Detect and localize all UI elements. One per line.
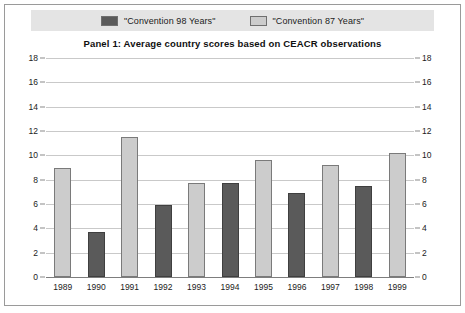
y-tickmark-right-8 bbox=[415, 179, 420, 180]
x-axis-label-1990: 1990 bbox=[87, 282, 106, 292]
y-tickmark-right-2 bbox=[415, 252, 420, 253]
bar-1997 bbox=[322, 165, 339, 277]
legend-entry-convention-87: "Convention 87 Years" bbox=[250, 16, 365, 26]
legend-swatch-icon-convention-87 bbox=[250, 16, 267, 26]
bar-group bbox=[46, 58, 414, 277]
x-axis-label-1992: 1992 bbox=[154, 282, 173, 292]
y-axis-label-left-16: 16 bbox=[18, 78, 38, 87]
y-tickmark-left-12 bbox=[40, 131, 45, 132]
x-axis-label-1997: 1997 bbox=[321, 282, 340, 292]
legend-swatch-icon-convention-98 bbox=[101, 16, 118, 26]
y-tickmark-left-14 bbox=[40, 106, 45, 107]
y-axis-label-right-8: 8 bbox=[422, 175, 442, 184]
y-axis-label-left-0: 0 bbox=[18, 273, 38, 282]
y-axis-label-right-16: 16 bbox=[422, 78, 442, 87]
y-tickmark-right-4 bbox=[415, 228, 420, 229]
y-tickmark-left-18 bbox=[40, 58, 45, 59]
y-axis-label-right-0: 0 bbox=[422, 273, 442, 282]
gridline-0 bbox=[46, 277, 414, 278]
bar-1991 bbox=[121, 137, 138, 277]
y-tickmark-right-12 bbox=[415, 131, 420, 132]
bar-1998 bbox=[355, 186, 372, 277]
chart-legend: "Convention 98 Years" "Convention 87 Yea… bbox=[31, 10, 434, 31]
y-tickmark-right-6 bbox=[415, 204, 420, 205]
y-axis-label-left-8: 8 bbox=[18, 175, 38, 184]
y-axis-label-left-10: 10 bbox=[18, 151, 38, 160]
y-tickmark-left-0 bbox=[40, 277, 45, 278]
y-tickmark-left-16 bbox=[40, 82, 45, 83]
chart-figure: "Convention 98 Years" "Convention 87 Yea… bbox=[0, 0, 465, 313]
plot-area: 002244668810101212141416161818 bbox=[46, 58, 414, 277]
y-tickmark-right-0 bbox=[415, 277, 420, 278]
y-tickmark-left-2 bbox=[40, 252, 45, 253]
y-axis-label-right-10: 10 bbox=[422, 151, 442, 160]
y-axis-label-left-2: 2 bbox=[18, 248, 38, 257]
y-tickmark-right-16 bbox=[415, 82, 420, 83]
bar-1992 bbox=[155, 205, 172, 277]
y-axis-label-left-6: 6 bbox=[18, 200, 38, 209]
y-axis-label-left-12: 12 bbox=[18, 127, 38, 136]
y-tickmark-right-18 bbox=[415, 58, 420, 59]
bar-1990 bbox=[88, 232, 105, 277]
x-axis-label-1993: 1993 bbox=[187, 282, 206, 292]
bar-1999 bbox=[389, 153, 406, 277]
y-tickmark-left-6 bbox=[40, 204, 45, 205]
legend-entry-convention-98: "Convention 98 Years" bbox=[101, 16, 216, 26]
y-axis-label-right-18: 18 bbox=[422, 54, 442, 63]
x-axis-label-1998: 1998 bbox=[354, 282, 373, 292]
bar-1995 bbox=[255, 160, 272, 277]
y-axis-label-left-18: 18 bbox=[18, 54, 38, 63]
y-tickmark-left-4 bbox=[40, 228, 45, 229]
y-axis-label-right-4: 4 bbox=[422, 224, 442, 233]
y-axis-label-right-6: 6 bbox=[422, 200, 442, 209]
legend-label-convention-98: "Convention 98 Years" bbox=[124, 16, 216, 26]
y-tickmark-right-14 bbox=[415, 106, 420, 107]
bar-1989 bbox=[54, 168, 71, 278]
x-axis-label-1994: 1994 bbox=[221, 282, 240, 292]
legend-label-convention-87: "Convention 87 Years" bbox=[273, 16, 365, 26]
x-axis-labels: 1989199019911992199319941995199619971998… bbox=[46, 282, 414, 296]
x-axis-label-1999: 1999 bbox=[388, 282, 407, 292]
x-axis-label-1995: 1995 bbox=[254, 282, 273, 292]
y-axis-label-left-14: 14 bbox=[18, 102, 38, 111]
x-axis-label-1989: 1989 bbox=[53, 282, 72, 292]
y-tickmark-left-8 bbox=[40, 179, 45, 180]
bar-1996 bbox=[288, 193, 305, 277]
x-axis-label-1991: 1991 bbox=[120, 282, 139, 292]
y-axis-label-right-2: 2 bbox=[422, 248, 442, 257]
x-axis-label-1996: 1996 bbox=[287, 282, 306, 292]
bar-1994 bbox=[222, 183, 239, 277]
y-axis-label-right-14: 14 bbox=[422, 102, 442, 111]
y-axis-label-right-12: 12 bbox=[422, 127, 442, 136]
y-axis-label-left-4: 4 bbox=[18, 224, 38, 233]
y-tickmark-left-10 bbox=[40, 155, 45, 156]
chart-title: Panel 1: Average country scores based on… bbox=[0, 38, 465, 49]
bar-1993 bbox=[188, 183, 205, 277]
y-tickmark-right-10 bbox=[415, 155, 420, 156]
